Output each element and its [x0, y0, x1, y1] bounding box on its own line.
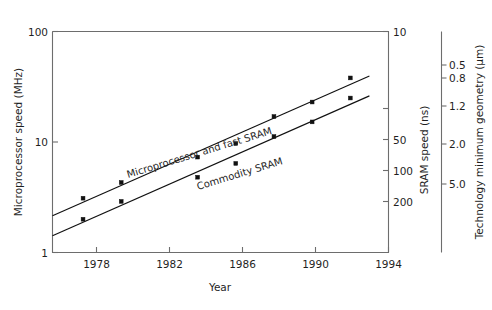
y-right-geometry-axis: 0.5 0.8 1.2 2.0 5.0 Technology minimum g… — [442, 32, 486, 253]
y-left-axis-title: Microprocessor speed (MHz) — [12, 68, 24, 216]
data-point — [196, 175, 200, 179]
y-sram-ticklabel-50: 50 — [393, 134, 406, 146]
x-ticklabel-1986: 1986 — [229, 258, 256, 270]
x-bottom-axis: 1978 1982 1986 1990 1994 Year — [83, 247, 402, 293]
data-point — [81, 196, 85, 200]
y-left-ticklabel-1: 1 — [41, 247, 48, 259]
data-point — [234, 162, 238, 166]
y-left-axis: 100 10 1 Microprocessor speed (MHz) — [12, 26, 58, 259]
x-ticklabel-1990: 1990 — [302, 258, 329, 270]
y-geometry-axis-title: Technology minimum geometry (µm) — [473, 45, 485, 241]
data-point — [119, 181, 123, 185]
y-sram-ticklabel-200: 200 — [393, 196, 413, 208]
y-geom-ticklabel-0-8: 0.8 — [449, 72, 466, 84]
x-axis-title: Year — [208, 281, 232, 293]
y-left-ticklabel-10: 10 — [35, 136, 48, 148]
data-point — [119, 200, 123, 204]
data-point — [310, 100, 314, 104]
y-geom-ticklabel-5-0: 5.0 — [449, 178, 466, 190]
y-geom-ticklabel-1-2: 1.2 — [449, 100, 466, 112]
data-point — [272, 115, 276, 119]
chart-figure: 100 10 1 Microprocessor speed (MHz) 1978… — [0, 0, 492, 310]
data-point — [348, 96, 352, 100]
series-1 — [53, 96, 370, 236]
data-point — [310, 120, 314, 124]
y-sram-ticklabel-10: 10 — [393, 26, 406, 38]
x-ticklabel-1994: 1994 — [375, 258, 402, 270]
x-ticklabel-1982: 1982 — [156, 258, 183, 270]
y-geom-ticklabel-0-5: 0.5 — [449, 59, 466, 71]
y-sram-axis-title: SRAM speed (ns) — [418, 106, 430, 195]
series-label-commodity-sram: Commodity SRAM — [195, 155, 284, 192]
y-right-sram-axis: 10 50 100 200 SRAM speed (ns) — [383, 26, 430, 208]
data-point — [81, 217, 85, 221]
series-layer — [53, 76, 370, 236]
series-trend-line — [53, 96, 370, 236]
chart-canvas: 100 10 1 Microprocessor speed (MHz) 1978… — [0, 0, 492, 310]
y-geom-ticklabel-2-0: 2.0 — [449, 138, 466, 150]
x-ticklabel-1978: 1978 — [83, 258, 110, 270]
data-point — [348, 76, 352, 80]
series-annotations: Microprocessor and fast SRAM Commodity S… — [125, 125, 284, 192]
y-left-ticklabel-100: 100 — [28, 26, 48, 38]
y-sram-ticklabel-100: 100 — [393, 165, 413, 177]
